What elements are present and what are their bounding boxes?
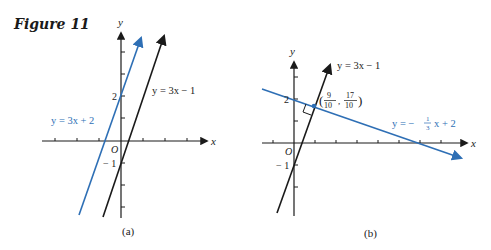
panel-b: y x O 2 − 1 y = 3x − 1 ( 9 10 , 17 10 ) … xyxy=(262,45,476,240)
origin-label: O xyxy=(285,146,292,157)
tick-label-neg1: − 1 xyxy=(276,160,289,171)
label-black-line: y = 3x − 1 xyxy=(337,60,380,71)
caption-a: (a) xyxy=(122,225,135,238)
figure-canvas: y x O 2 − 1 y = 3x − 1 y = 3x + 2 (a) xyxy=(0,0,491,250)
label-blue-line: y = 3x + 2 xyxy=(51,115,94,126)
x-axis-label: x xyxy=(470,137,476,149)
point-y-den: 10 xyxy=(345,101,353,110)
label-black-line: y = 3x − 1 xyxy=(152,85,195,96)
tick-label-neg1: − 1 xyxy=(103,158,116,169)
blue-frac-num: 1 xyxy=(426,115,430,123)
paren-close: ) xyxy=(358,93,362,108)
intersection-point xyxy=(312,104,317,109)
x-axis-label: x xyxy=(210,135,216,147)
origin-label: O xyxy=(111,144,118,155)
blue-frac-den: 3 xyxy=(426,124,430,132)
point-x-num: 9 xyxy=(327,91,331,100)
y-axis-label: y xyxy=(289,45,295,57)
paren-open: ( xyxy=(319,93,323,108)
intersection-label: ( 9 10 , 17 10 ) xyxy=(319,91,362,110)
point-y-num: 17 xyxy=(346,91,354,100)
point-x-den: 10 xyxy=(324,101,332,110)
line-black-3x-minus-1 xyxy=(103,36,164,217)
tick-label-2: 2 xyxy=(284,94,289,105)
line-black-3x-minus-1 xyxy=(277,65,330,213)
point-sep: , xyxy=(338,96,340,106)
line-blue-3x-plus-2 xyxy=(79,38,141,215)
y-axis-label: y xyxy=(117,16,123,28)
tick-label-2: 2 xyxy=(112,91,117,102)
label-blue-line: y = − 1 3 x + 2 xyxy=(392,115,456,132)
blue-label-prefix: y = − xyxy=(392,118,414,129)
caption-b: (b) xyxy=(364,227,377,240)
panel-a: y x O 2 − 1 y = 3x − 1 y = 3x + 2 (a) xyxy=(42,16,216,238)
blue-label-suffix: x + 2 xyxy=(434,118,456,129)
